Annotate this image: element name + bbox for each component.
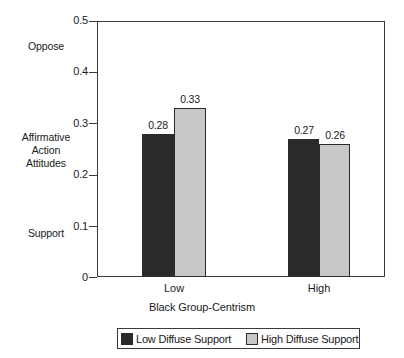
- y-tick-label-0.3: 0.3: [48, 118, 88, 129]
- y-tick-mark-0.1: [89, 226, 97, 227]
- y-tick-mark-0.3: [89, 123, 97, 124]
- legend-label-high-diffuse-support: High Diffuse Support: [261, 333, 358, 345]
- scale-annotation-attitudes: Affirmative Action Attitudes: [8, 131, 84, 170]
- legend-swatch-light-icon: [246, 333, 258, 345]
- y-tick-mark-0.4: [89, 72, 97, 73]
- bar-value-low-light: 0.33: [168, 94, 212, 105]
- legend-entry-high-diffuse-support: High Diffuse Support: [246, 329, 358, 348]
- bar-low-diffuse-support-low-centrism: [142, 134, 174, 277]
- bar-high-diffuse-support-low-centrism: [174, 108, 206, 277]
- bar-high-diffuse-support-high-centrism: [319, 144, 350, 277]
- y-tick-label-0.4: 0.4: [48, 66, 88, 77]
- y-tick-mark-0.5: [89, 21, 97, 22]
- bar-chart-figure: 0.5 0.4 0.3 0.2 0.1 0 Oppose Affirmative…: [0, 0, 404, 358]
- scale-annotation-attitudes-line2: Action: [8, 144, 84, 157]
- y-tick-mark-0.2: [89, 175, 97, 176]
- x-category-label-high: High: [274, 282, 364, 294]
- legend-swatch-dark-icon: [121, 333, 133, 345]
- bar-value-high-light: 0.26: [313, 130, 357, 141]
- x-category-label-low: Low: [129, 282, 219, 294]
- chart-legend: Low Diffuse Support High Diffuse Support: [117, 328, 360, 349]
- y-tick-label-0.5: 0.5: [48, 15, 88, 26]
- scale-annotation-oppose: Oppose: [8, 40, 84, 53]
- bar-low-diffuse-support-high-centrism: [288, 139, 319, 277]
- y-tick-label-0.2: 0.2: [48, 169, 88, 180]
- y-tick-mark-0: [89, 277, 97, 278]
- scale-annotation-attitudes-line3: Attitudes: [8, 157, 84, 170]
- x-axis-title: Black Group-Centrism: [0, 301, 404, 313]
- scale-annotation-attitudes-line1: Affirmative: [8, 131, 84, 144]
- legend-entry-low-diffuse-support: Low Diffuse Support: [121, 329, 231, 348]
- legend-label-low-diffuse-support: Low Diffuse Support: [136, 333, 231, 345]
- scale-annotation-support: Support: [8, 227, 84, 240]
- y-tick-label-0: 0: [48, 272, 88, 283]
